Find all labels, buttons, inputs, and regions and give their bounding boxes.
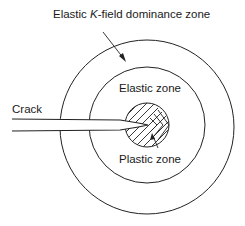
k-field-label-post: -field dominance zone: [98, 8, 211, 20]
k-field-label-pre: Elastic: [53, 8, 90, 20]
k-field-label: Elastic K-field dominance zone: [53, 9, 210, 21]
plastic-zone-label: Plastic zone: [119, 154, 181, 166]
crack-label: Crack: [12, 104, 42, 116]
plastic-arrowhead-icon: [150, 133, 155, 140]
k-field-label-k: K: [90, 8, 98, 20]
elastic-zone-label: Elastic zone: [119, 83, 181, 95]
crack: [12, 119, 148, 131]
